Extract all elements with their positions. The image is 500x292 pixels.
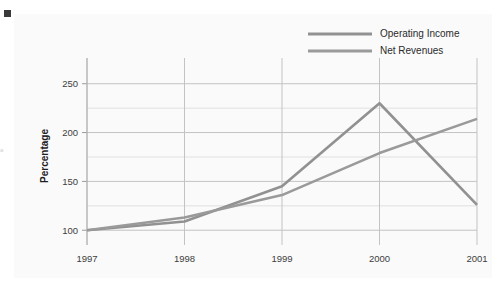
chart-legend: Operating IncomeNet Revenues [308,28,460,56]
x-tick-label: 1998 [174,253,195,264]
legend-label: Net Revenues [380,45,443,56]
y-axis-title: Percentage [39,129,50,183]
x-tick-label: 2001 [466,253,487,264]
chart-panel: 100150200250 19971998199920002001 Percen… [14,14,492,278]
y-axis-title-label: Percentage [39,129,50,183]
line-chart: 100150200250 19971998199920002001 Percen… [14,14,492,278]
y-axis [82,58,87,245]
legend-label: Operating Income [380,28,460,39]
y-tick-label: 250 [62,78,78,89]
y-tick-label: 150 [62,176,78,187]
x-tick-label: 2000 [369,253,390,264]
x-tick-label: 1997 [76,253,97,264]
y-tick-label: 200 [62,127,78,138]
corner-square-marker [4,10,11,17]
y-tick-label: 100 [62,225,78,236]
category-gridlines [87,58,477,245]
margin-note-text: a [0,146,12,155]
x-tick-label: 1999 [271,253,292,264]
y-tick-labels: 100150200250 [62,78,78,236]
x-tick-labels: 19971998199920002001 [76,253,487,264]
